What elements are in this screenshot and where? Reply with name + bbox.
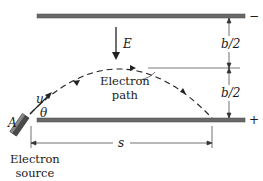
electron-path-label-line2: path <box>100 88 150 102</box>
electron-path-label: Electron path <box>100 74 150 102</box>
top-plate <box>37 14 245 18</box>
top-plate-polarity: − <box>249 10 259 22</box>
bottom-plate <box>37 118 245 122</box>
velocity-label: u <box>36 93 44 105</box>
range-label: s <box>118 137 124 149</box>
half-gap-lower-label: b/2 <box>221 87 240 99</box>
half-gap-upper-label: b/2 <box>221 38 240 50</box>
bottom-plate-polarity: + <box>249 114 259 126</box>
path-arrow-icon <box>130 65 136 71</box>
field-label: E <box>123 38 132 50</box>
path-arrow-icon <box>180 88 186 94</box>
field-arrow-icon <box>112 27 120 60</box>
point-a-label: A <box>8 117 17 129</box>
electron-source-label-line2: source <box>10 166 60 180</box>
electron-source-label-line1: Electron <box>10 152 60 166</box>
path-arrow-icon <box>73 80 80 86</box>
angle-label: θ <box>40 107 47 119</box>
electron-source-label: Electron source <box>10 152 60 180</box>
electron-path-label-line1: Electron <box>100 74 150 88</box>
